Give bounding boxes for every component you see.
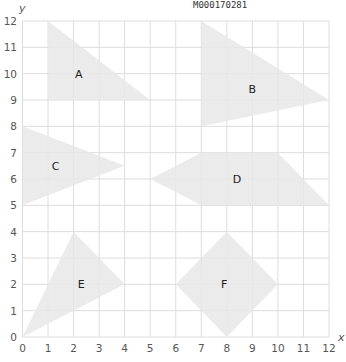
x-tick-label: 1 — [45, 342, 52, 354]
y-axis-label: y — [18, 2, 26, 15]
y-tick-label: 5 — [10, 199, 17, 211]
shape-d: D — [150, 153, 329, 206]
y-tick-label: 9 — [10, 94, 17, 106]
coordinate-grid: ABCDEF01234567891011120123456789101112xy — [0, 0, 346, 362]
shape-label: E — [78, 278, 85, 291]
y-tick-label: 6 — [10, 173, 17, 185]
x-tick-label: 2 — [70, 342, 77, 354]
y-tick-label: 7 — [10, 147, 17, 159]
x-tick-label: 10 — [271, 342, 284, 354]
y-tick-label: 12 — [4, 15, 17, 27]
y-tick-label: 0 — [10, 331, 17, 343]
y-tick-label: 1 — [10, 305, 17, 317]
shape-label: C — [52, 160, 60, 173]
x-tick-label: 12 — [322, 342, 335, 354]
y-tick-label: 10 — [4, 68, 17, 80]
x-tick-label: 7 — [198, 342, 205, 354]
x-tick-label: 6 — [172, 342, 179, 354]
x-tick-label: 11 — [297, 342, 310, 354]
x-tick-label: 5 — [147, 342, 154, 354]
y-tick-label: 3 — [10, 252, 17, 264]
shape-label: A — [75, 68, 83, 81]
x-tick-label: 3 — [96, 342, 103, 354]
x-tick-label: 4 — [121, 342, 128, 354]
y-tick-label: 2 — [10, 278, 17, 290]
y-tick-label: 8 — [10, 120, 17, 132]
x-tick-label: 0 — [19, 342, 26, 354]
x-axis-label: x — [337, 331, 345, 344]
shape-label: B — [249, 83, 257, 96]
shape-label: F — [221, 278, 227, 291]
y-tick-label: 4 — [10, 226, 17, 238]
x-tick-label: 9 — [249, 342, 256, 354]
x-tick-label: 8 — [223, 342, 230, 354]
shape-label: D — [233, 173, 241, 186]
y-tick-label: 11 — [4, 41, 17, 53]
shape-f: F — [176, 232, 278, 337]
